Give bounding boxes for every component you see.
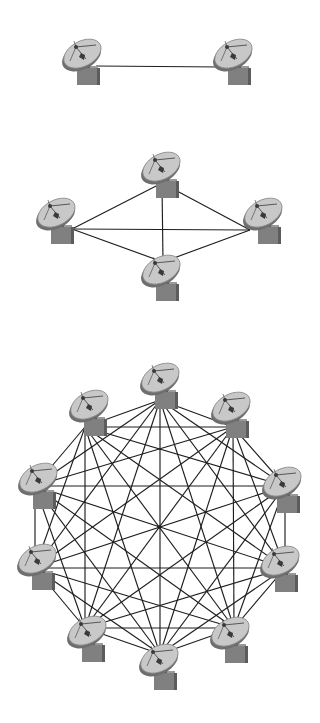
link-line xyxy=(233,427,234,628)
link-line xyxy=(72,183,162,229)
link-line xyxy=(85,486,285,628)
satellite-dish-icon xyxy=(136,146,185,198)
network-four-stations xyxy=(31,146,287,301)
satellite-dish-icon xyxy=(134,638,183,690)
link-line xyxy=(35,427,233,568)
satellite-dish-icon xyxy=(257,461,306,513)
link-line xyxy=(96,66,222,67)
satellite-dish-icon xyxy=(205,611,254,663)
network-nodes xyxy=(57,33,257,85)
satellite-dish-icon xyxy=(13,457,62,509)
network-links xyxy=(35,400,285,654)
satellite-dish-icon xyxy=(64,384,113,436)
satellite-dish-icon xyxy=(62,610,111,662)
satellite-dish-icon xyxy=(12,538,61,590)
satellite-network-diagram xyxy=(0,0,320,723)
satellite-dish-icon xyxy=(31,192,80,244)
satellite-dish-icon xyxy=(57,33,106,85)
link-line xyxy=(35,486,234,628)
network-links xyxy=(96,66,222,67)
network-nodes xyxy=(12,357,306,690)
satellite-dish-icon xyxy=(135,357,184,409)
network-two-stations xyxy=(57,33,257,85)
link-line xyxy=(85,427,285,568)
network-ten-stations xyxy=(12,357,306,690)
link-line xyxy=(72,229,163,262)
satellite-dish-icon xyxy=(208,33,257,85)
satellite-dish-icon xyxy=(206,386,255,438)
diagram-canvas xyxy=(0,0,320,723)
satellite-dish-icon xyxy=(238,192,287,244)
network-nodes xyxy=(31,146,287,301)
mesh-center-point xyxy=(157,525,161,529)
link-line xyxy=(72,229,250,230)
